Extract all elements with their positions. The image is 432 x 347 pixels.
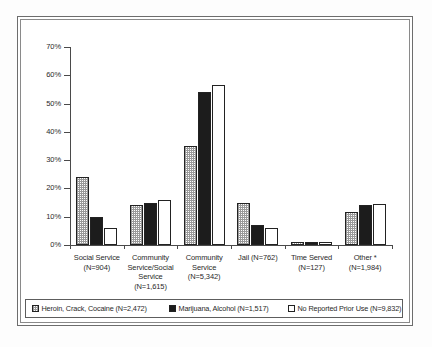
category-label-line: Social Service bbox=[70, 253, 124, 263]
legend-swatch-icon bbox=[288, 305, 295, 312]
bar bbox=[158, 200, 171, 245]
bar bbox=[144, 203, 157, 245]
bars-container bbox=[70, 47, 392, 245]
category-label-line: Community bbox=[124, 253, 178, 263]
y-axis-tick-label: 50% bbox=[46, 98, 61, 109]
bar bbox=[104, 228, 117, 245]
bar-group bbox=[130, 47, 171, 245]
category-label-line: (N=904) bbox=[70, 263, 124, 273]
bar bbox=[265, 228, 278, 245]
bar-group bbox=[291, 47, 332, 245]
y-axis-tick-label: 40% bbox=[46, 126, 61, 137]
bar-group bbox=[237, 47, 278, 245]
bar bbox=[345, 212, 358, 245]
y-axis-tick-label: 10% bbox=[46, 211, 61, 222]
legend-item: Heroin, Crack, Cocaine (N=2,472) bbox=[32, 304, 147, 314]
legend-item: No Reported Prior Use (N=9,832) bbox=[288, 304, 401, 314]
bar bbox=[184, 146, 197, 245]
category-label-line: Service bbox=[124, 272, 178, 282]
category-label-line: Time Served bbox=[285, 253, 339, 263]
bar bbox=[319, 242, 332, 245]
x-axis-tick bbox=[285, 245, 286, 249]
x-axis-category-label: CommunityService/SocialService(N=1,615) bbox=[124, 253, 178, 291]
y-axis-tick-label: 30% bbox=[46, 154, 61, 165]
bar-group bbox=[76, 47, 117, 245]
x-axis-category-label: Other *(N=1,984) bbox=[338, 253, 392, 272]
legend-item-label: Heroin, Crack, Cocaine (N=2,472) bbox=[42, 304, 147, 314]
bar bbox=[237, 203, 250, 245]
x-axis-category-label: Social Service(N=904) bbox=[70, 253, 124, 272]
category-label-line: (N=1,984) bbox=[338, 263, 392, 273]
figure-page: 0%10%20%30%40%50%60%70% Social Service(N… bbox=[0, 0, 432, 347]
bar-group bbox=[184, 47, 225, 245]
bar bbox=[198, 92, 211, 245]
x-axis-tick bbox=[70, 245, 71, 249]
x-axis-tick bbox=[231, 245, 232, 249]
chart-legend: Heroin, Crack, Cocaine (N=2,472)Marijuan… bbox=[25, 299, 403, 318]
bar-group bbox=[345, 47, 386, 245]
category-label-line: Service bbox=[177, 263, 231, 273]
bar bbox=[90, 217, 103, 245]
bar bbox=[373, 204, 386, 245]
legend-swatch-icon bbox=[32, 305, 39, 312]
bar bbox=[359, 205, 372, 245]
legend-item: Marijuana, Alcohol (N=1,517) bbox=[169, 304, 269, 314]
x-axis-tick bbox=[338, 245, 339, 249]
x-axis-tick bbox=[177, 245, 178, 249]
x-axis-category-label: CommunityService(N=5,342) bbox=[177, 253, 231, 282]
y-axis-tick-label: 60% bbox=[46, 69, 61, 80]
legend-item-label: Marijuana, Alcohol (N=1,517) bbox=[179, 304, 269, 314]
category-label-line: (N=5,342) bbox=[177, 272, 231, 282]
category-label-line: (N=1,615) bbox=[124, 282, 178, 292]
legend-swatch-icon bbox=[169, 305, 176, 312]
category-label-line: (N=127) bbox=[285, 263, 339, 273]
category-label-line: Jail (N=762) bbox=[231, 253, 285, 263]
bar bbox=[251, 225, 264, 245]
bar bbox=[305, 242, 318, 245]
x-axis-tick bbox=[392, 245, 393, 249]
chart-plot-region: 0%10%20%30%40%50%60%70% Social Service(N… bbox=[18, 17, 414, 327]
x-axis-category-label: Jail (N=762) bbox=[231, 253, 285, 263]
category-label-line: Service/Social bbox=[124, 263, 178, 273]
x-axis-tick bbox=[124, 245, 125, 249]
y-axis-tick-label: 0% bbox=[50, 239, 61, 250]
x-axis-category-label: Time Served(N=127) bbox=[285, 253, 339, 272]
bar bbox=[76, 177, 89, 245]
figure-outer-border: 0%10%20%30%40%50%60%70% Social Service(N… bbox=[17, 16, 413, 326]
category-label-line: Other * bbox=[338, 253, 392, 263]
bar bbox=[130, 205, 143, 245]
category-label-line: Community bbox=[177, 253, 231, 263]
bar bbox=[291, 242, 304, 245]
bar bbox=[212, 85, 225, 245]
y-axis-tick-label: 70% bbox=[46, 41, 61, 52]
y-axis-tick-label: 20% bbox=[46, 182, 61, 193]
legend-item-label: No Reported Prior Use (N=9,832) bbox=[298, 304, 402, 314]
